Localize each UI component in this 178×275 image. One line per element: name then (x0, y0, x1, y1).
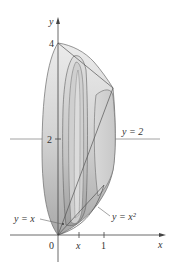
axis-of-rotation-label: y = 2 (121, 126, 143, 137)
origin-label: 0 (49, 240, 54, 251)
washer-face-right (94, 90, 115, 196)
curve-line-label: y = x (13, 213, 35, 224)
y-axis-arrow-icon (56, 17, 60, 24)
y-axis-label: y (48, 16, 54, 27)
x-tick-label-1: 1 (101, 240, 106, 251)
curve-parabola-label: y = x² (111, 211, 137, 222)
leader-y-eq-x2 (98, 207, 110, 216)
y-tick-4: 4 (49, 38, 54, 49)
y-tick-2: 2 (47, 134, 52, 145)
solid-of-revolution-figure: y 4 2 y = 2 y = x y = x² 0 x 1 x (0, 0, 178, 275)
x-axis-label: x (157, 239, 163, 250)
x-axis-arrow-icon (159, 233, 166, 237)
x-axis (10, 232, 166, 238)
leader-dot (62, 223, 64, 225)
x-tick-label-x: x (75, 240, 81, 251)
inner-washer (63, 56, 88, 226)
